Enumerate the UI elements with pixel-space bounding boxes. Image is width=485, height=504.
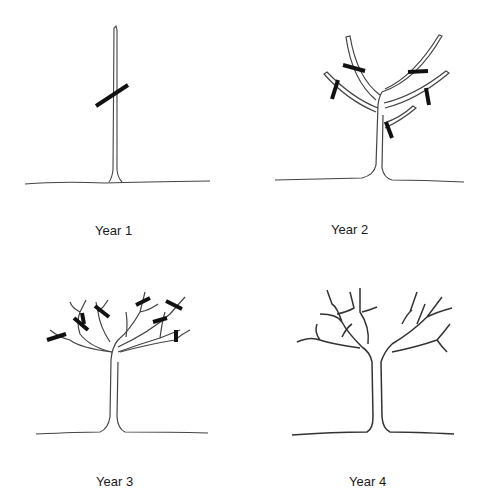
panel-label: Year 3 xyxy=(96,474,133,489)
cut-mark xyxy=(82,313,84,324)
tree-year-4-illustration xyxy=(242,252,485,504)
panel-label: Year 1 xyxy=(95,223,132,238)
cut-mark xyxy=(166,301,182,309)
cut-mark xyxy=(153,318,167,322)
panel-year-2: Year 2 xyxy=(242,0,484,252)
cut-mark xyxy=(426,88,429,105)
tree-year-1-illustration xyxy=(0,0,242,252)
panel-label: Year 2 xyxy=(331,222,368,237)
cut-mark xyxy=(408,71,428,72)
cut-mark xyxy=(96,85,128,106)
tree-year-2-illustration xyxy=(242,0,485,252)
panel-year-4: Year 4 xyxy=(242,252,484,504)
panel-year-3: Year 3 xyxy=(0,252,242,504)
cut-mark xyxy=(74,318,88,330)
panel-year-1: Year 1 xyxy=(0,0,242,252)
tree-year-3-illustration xyxy=(0,252,242,504)
panel-label: Year 4 xyxy=(349,474,386,489)
